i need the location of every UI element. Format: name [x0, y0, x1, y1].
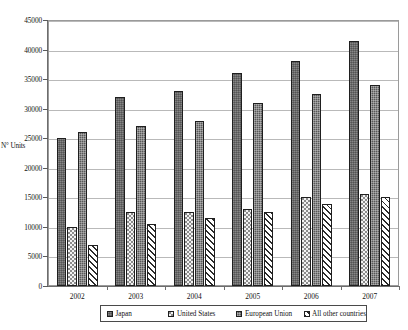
legend-item-all-other-countries[interactable]: All other countries: [298, 310, 366, 318]
y-axis-tick-label: 20000: [24, 163, 42, 172]
chart-legend: JapanUnited StatesEuropean UnionAll othe…: [100, 305, 367, 322]
bar-united-states-2005: [243, 209, 253, 286]
bar-european-union-2004: [195, 121, 205, 287]
y-axis-tick-label: 45000: [24, 16, 42, 25]
bar-all-other-countries-2006: [322, 204, 332, 286]
legend-item-japan[interactable]: Japan: [101, 310, 162, 318]
legend-swatch-icon: [236, 311, 242, 317]
bar-european-union-2003: [136, 126, 146, 286]
y-axis-tick-label: 5000: [28, 252, 42, 261]
bar-chart: 0500010000150002000025000300003500040000…: [0, 0, 408, 330]
legend-swatch-icon: [107, 311, 113, 317]
x-axis-tick-mark: [107, 286, 108, 290]
bar-all-other-countries-2005: [264, 212, 274, 286]
x-axis-tick-label: 2006: [304, 292, 319, 301]
x-axis-tick-mark: [399, 286, 400, 290]
legend-item-united-states[interactable]: United States: [162, 310, 230, 318]
x-axis-tick-mark: [282, 286, 283, 290]
bar-united-states-2004: [184, 212, 194, 286]
bar-all-other-countries-2002: [88, 245, 98, 286]
x-axis: 200220032004200520062007: [48, 286, 399, 306]
x-axis-tick-label: 2004: [187, 292, 202, 301]
bar-european-union-2002: [78, 132, 88, 286]
bar-japan-2005: [232, 73, 242, 286]
bar-japan-2007: [349, 41, 359, 286]
y-axis-tick-label: 0: [38, 282, 42, 291]
legend-item-label: Japan: [116, 310, 132, 318]
bar-all-other-countries-2004: [205, 218, 215, 286]
bar-european-union-2005: [253, 103, 263, 286]
legend-item-label: European Union: [245, 310, 292, 318]
y-axis-label: N° Units: [1, 142, 25, 150]
bar-european-union-2007: [370, 85, 380, 286]
bar-united-states-2003: [126, 212, 136, 286]
y-axis-tick-label: 15000: [24, 193, 42, 202]
y-axis-tick-label: 10000: [24, 222, 42, 231]
legend-swatch-icon: [168, 311, 174, 317]
bar-japan-2003: [115, 97, 125, 286]
bar-japan-2004: [174, 91, 184, 286]
x-axis-tick-label: 2005: [245, 292, 260, 301]
bar-all-other-countries-2003: [147, 224, 157, 286]
bar-japan-2002: [57, 138, 67, 286]
y-axis-tick-label: 25000: [24, 134, 42, 143]
bar-united-states-2002: [67, 227, 77, 286]
bar-united-states-2006: [301, 197, 311, 286]
legend-item-label: All other countries: [312, 310, 366, 318]
bar-all-other-countries-2007: [381, 197, 391, 286]
x-axis-tick-label: 2002: [70, 292, 85, 301]
legend-swatch-icon: [304, 311, 310, 317]
x-axis-tick-mark: [224, 286, 225, 290]
x-axis-tick-mark: [341, 286, 342, 290]
bar-japan-2006: [291, 61, 301, 286]
legend-item-european-union[interactable]: European Union: [230, 310, 297, 318]
bar-european-union-2006: [312, 94, 322, 286]
x-axis-tick-mark: [165, 286, 166, 290]
y-axis-tick-label: 30000: [24, 104, 42, 113]
x-axis-tick-label: 2003: [128, 292, 143, 301]
bar-series-group: [48, 20, 399, 286]
x-axis-tick-label: 2007: [362, 292, 377, 301]
y-axis: 0500010000150002000025000300003500040000…: [0, 20, 48, 287]
bar-united-states-2007: [360, 194, 370, 286]
y-axis-tick-label: 40000: [24, 45, 42, 54]
legend-item-label: United States: [177, 310, 216, 318]
y-axis-tick-label: 35000: [24, 75, 42, 84]
